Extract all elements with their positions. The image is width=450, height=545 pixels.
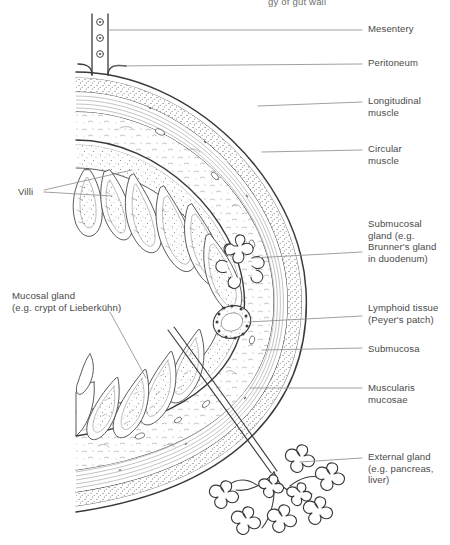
label-villi: Villi (18, 186, 33, 198)
leader-longitudinal-muscle (258, 102, 362, 106)
label-submucosa: Submucosa (368, 343, 420, 355)
label-muscularis-mucosae: Muscularis mucosae (368, 382, 415, 405)
label-lymphoid-tissue: Lymphoid tissue (Peyer's patch) (368, 302, 438, 325)
label-circular-muscle: Circular muscle (368, 143, 402, 166)
figure-title: gy of gut wall (268, 0, 326, 7)
leader-circular-muscle (262, 150, 362, 152)
label-submucosal-gland: Submucosal gland (e.g. Brunner's gland i… (368, 218, 436, 264)
external-gland-acini (209, 445, 344, 535)
label-longitudinal-muscle: Longitudinal muscle (368, 95, 421, 118)
label-mesentery: Mesentery (368, 23, 414, 35)
label-mucosal-gland: Mucosal gland (e.g. crypt of Lieberkühn) (12, 290, 121, 313)
leader-mucosal-gland (110, 312, 146, 378)
label-peritoneum: Peritoneum (368, 57, 418, 69)
leader-peritoneum (112, 64, 362, 66)
label-external-gland: External gland (e.g. pancreas, liver) (368, 451, 434, 486)
diagram-canvas: gy of gut wall Mesentery Peritoneum Long… (0, 0, 450, 545)
gut-wall-body (44, 14, 362, 534)
